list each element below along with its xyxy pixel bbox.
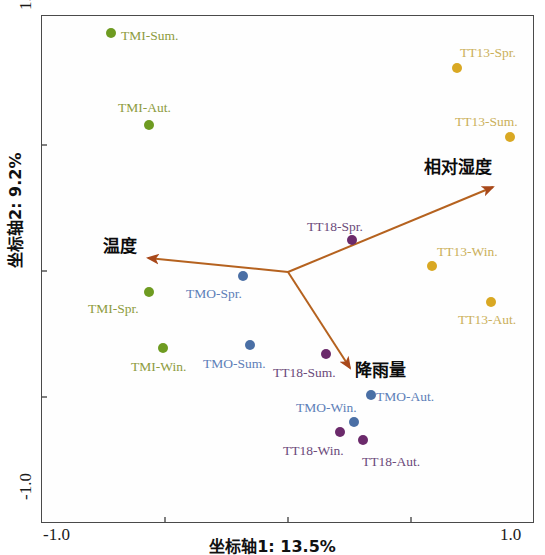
point-label: TMI-Aut.	[118, 101, 171, 115]
vector-label: 温度	[103, 232, 137, 257]
point-label: TMO-Spr.	[186, 287, 242, 301]
point-label: TMO-Sum.	[203, 357, 266, 371]
point-label: TMI-Win.	[131, 360, 186, 374]
point-label: TT13-Win.	[437, 245, 498, 259]
y-axis-title: 坐标轴2: 9.2%	[2, 153, 26, 268]
point-label: TT18-Sum.	[273, 366, 336, 380]
point-label: TT18-Aut.	[362, 455, 420, 469]
x-axis-title: 坐标轴1: 13.5%	[0, 533, 545, 555]
point-label: TMI-Spr.	[88, 302, 139, 316]
point-label: TT18-Win.	[283, 444, 344, 458]
point-label: TMO-Win.	[296, 401, 357, 415]
point-label: TMO-Aut.	[376, 390, 434, 404]
y-axis-max-label: 1.0	[16, 0, 36, 10]
vector-label: 相对湿度	[424, 153, 492, 178]
point-label: TT13-Sum.	[455, 115, 518, 129]
point-label: TMI-Sum.	[121, 29, 178, 43]
vector-label: 降雨量	[355, 356, 406, 381]
point-label: TT13-Aut.	[458, 313, 516, 327]
point-label: TT18-Spr.	[307, 220, 363, 234]
point-label: TT13-Spr.	[460, 46, 516, 60]
y-axis-min-label: -1.0	[16, 473, 36, 500]
chart-canvas: 1.0 -1.0 -1.0 1.0 坐标轴1: 13.5% 坐标轴2: 9.2%…	[0, 0, 545, 555]
